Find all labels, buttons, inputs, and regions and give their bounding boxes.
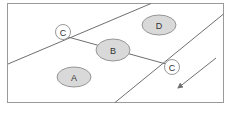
zone-a: A (57, 67, 91, 87)
node-c-left: C (56, 25, 71, 40)
zone-d-label: D (156, 21, 163, 31)
node-c-left-label: C (60, 28, 67, 38)
zone-b-label: B (110, 46, 116, 56)
zone-d: D (142, 15, 176, 35)
node-c-right: C (165, 60, 180, 75)
zone-b: B (96, 39, 130, 61)
node-c-right-label: C (169, 63, 176, 73)
zone-a-label: A (71, 73, 77, 83)
diagram-canvas: A B D C C (0, 0, 232, 113)
